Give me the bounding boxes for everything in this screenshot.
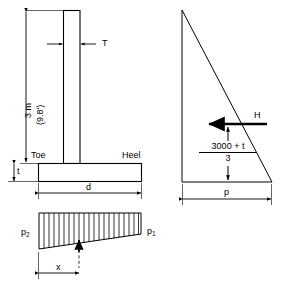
figure-canvas: 3 m (9.8') T Toe Heel t d p2 p1 x H 3000… <box>0 0 291 287</box>
height-dimension <box>20 11 63 164</box>
pressure-p1-subscript: 1 <box>152 230 156 237</box>
base-pressure-label: p <box>224 188 229 197</box>
pressure-p2-label: p2 <box>21 228 30 239</box>
resultant-force-label: H <box>254 111 261 120</box>
footing-thickness-label: t <box>17 167 20 176</box>
stem-thickness-label: T <box>102 39 108 48</box>
lever-arm-denominator: 3 <box>199 154 257 163</box>
pressure-p2-subscript: 2 <box>26 231 30 238</box>
wall-height-label-metric: 3 m <box>24 103 33 118</box>
x-distance-label: x <box>56 263 61 272</box>
wall-height-label-imperial: (9.8') <box>36 105 45 125</box>
bearing-pressure-diagram <box>39 213 141 268</box>
wall-stem <box>64 11 81 164</box>
lever-arm-numerator: 3000 + t <box>199 142 257 151</box>
footing-width-label: d <box>86 183 91 192</box>
heel-label: Heel <box>122 151 141 160</box>
wall-footing <box>39 164 142 182</box>
pressure-p1-label: p1 <box>147 227 156 238</box>
toe-label: Toe <box>31 151 46 160</box>
lever-arm-label: 3000 + t 3 <box>199 142 257 164</box>
footing-thickness-dimension <box>8 164 40 182</box>
